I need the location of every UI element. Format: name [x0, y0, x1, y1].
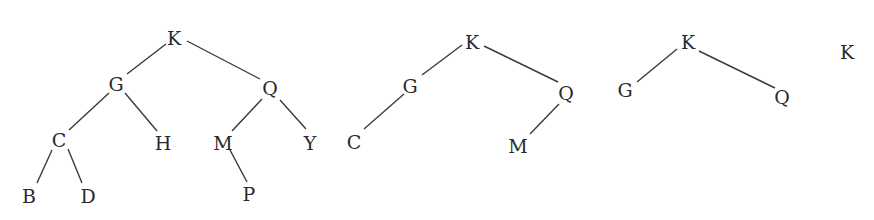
edge-g-c [69, 93, 109, 130]
node-c: C [52, 129, 67, 151]
tree-4: K [840, 41, 855, 63]
edge-k-q [699, 51, 775, 88]
node-k: K [840, 41, 855, 63]
edge-m-p [230, 150, 247, 182]
node-k: K [465, 31, 480, 53]
node-q: Q [558, 82, 574, 104]
node-h: H [155, 132, 172, 154]
node-y: Y [303, 132, 317, 154]
tree-diagram-canvas: KGQCHMYBDPKGQCMKGQK [0, 0, 874, 220]
edge-c-d [68, 149, 82, 183]
edge-c-b [37, 150, 52, 183]
node-p: P [243, 183, 256, 205]
edge-k-g [422, 45, 462, 75]
node-b: B [22, 185, 36, 207]
edge-k-q [187, 41, 260, 79]
node-q: Q [262, 77, 278, 99]
edge-q-m [232, 99, 262, 131]
edge-g-h [125, 93, 157, 131]
node-m: M [213, 132, 232, 154]
edge-k-g [637, 49, 677, 82]
node-k: K [681, 31, 696, 53]
node-m: M [508, 135, 527, 157]
tree-1: KGQCHMYBDP [22, 27, 317, 207]
node-g: G [108, 73, 123, 95]
tree-3: KGQ [617, 31, 789, 108]
edge-k-g [127, 44, 166, 74]
edge-q-y [280, 100, 306, 129]
node-d: D [80, 185, 95, 207]
edge-k-q [484, 46, 558, 82]
edge-q-m [530, 104, 559, 134]
node-g: G [617, 79, 632, 101]
node-k: K [167, 27, 182, 49]
node-q: Q [774, 86, 790, 108]
node-g: G [402, 75, 417, 97]
tree-2: KGQCM [347, 31, 574, 157]
node-c: C [347, 131, 362, 153]
edge-g-c [364, 94, 404, 129]
